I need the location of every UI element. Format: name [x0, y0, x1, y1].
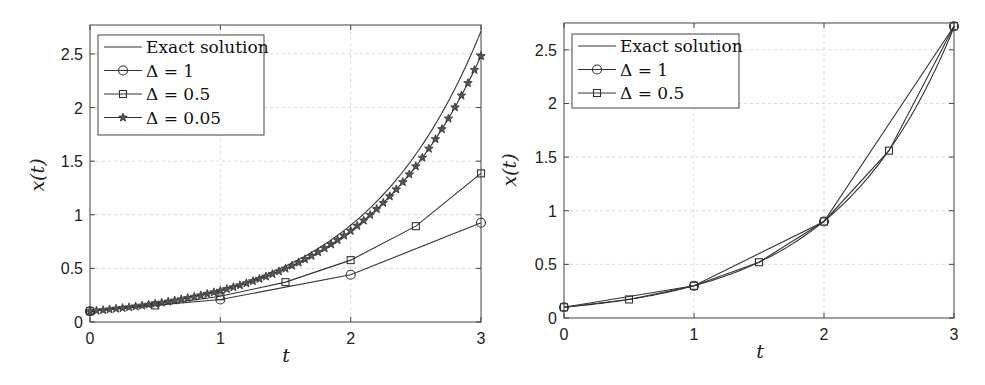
x-axis-label: t [756, 340, 764, 362]
y-tick-label: 1.5 [61, 153, 83, 170]
series-3-star-marker [431, 135, 440, 143]
y-tick-label: 2 [548, 95, 557, 112]
series-3-star-marker [457, 91, 466, 99]
series-3-star-marker [112, 304, 121, 312]
legend-label: Δ = 0.5 [146, 84, 210, 104]
series-3-star-marker [131, 302, 140, 310]
series-3-star-marker [118, 303, 127, 311]
series-2 [87, 170, 485, 315]
legend-label: Δ = 1 [146, 61, 194, 81]
right-plot-exact-samples: 012300.511.522.5tx(t)Exact solutionΔ = 1… [498, 22, 959, 362]
x-tick-label: 3 [477, 330, 486, 347]
legend: Exact solutionΔ = 1Δ = 0.5 [572, 34, 743, 108]
legend-label: Exact solution [146, 37, 269, 57]
x-tick-label: 0 [560, 326, 569, 343]
left-plot-euler-comparison: 012300.511.522.5tx(t)Exact solutionΔ = 1… [26, 25, 486, 366]
y-axis-label: x(t) [26, 158, 48, 191]
x-tick-label: 1 [690, 326, 699, 343]
y-tick-label: 1 [548, 203, 557, 220]
legend-label: Δ = 1 [620, 60, 668, 80]
legend: Exact solutionΔ = 1Δ = 0.5Δ = 0.05 [98, 35, 269, 135]
series-3-star-marker [470, 65, 479, 73]
legend-label: Δ = 0.05 [146, 108, 221, 128]
y-tick-label: 0.5 [61, 260, 83, 277]
x-tick-label: 0 [86, 330, 95, 347]
y-tick-label: 0 [548, 310, 557, 327]
y-tick-label: 1.5 [535, 149, 557, 166]
y-tick-label: 1 [74, 207, 83, 224]
y-tick-label: 0 [74, 314, 83, 331]
series-3-star-marker [438, 125, 447, 133]
x-tick-label: 2 [346, 330, 355, 347]
series-3-star-marker [464, 79, 473, 87]
y-axis-label: x(t) [498, 153, 520, 186]
legend-label: Exact solution [620, 36, 743, 56]
series-3-star-marker [444, 114, 453, 122]
x-tick-label: 3 [950, 326, 959, 343]
series-3-star-marker [138, 301, 147, 309]
series-2-line [90, 173, 481, 311]
y-tick-label: 2 [74, 100, 83, 117]
series-3-star-marker [125, 303, 134, 311]
x-tick-label: 1 [216, 330, 225, 347]
figure: 012300.511.522.5tx(t)Exact solutionΔ = 1… [0, 0, 985, 385]
series-3-star-marker [425, 144, 434, 152]
y-tick-label: 2.5 [61, 46, 83, 63]
x-axis-label: t [282, 344, 290, 366]
series-3-star-marker [105, 305, 114, 313]
x-tick-label: 2 [820, 326, 829, 343]
series-3-star-marker [99, 306, 108, 314]
legend-label: Δ = 0.5 [620, 83, 684, 103]
series-3-star-marker [451, 103, 460, 111]
y-tick-label: 2.5 [535, 42, 557, 59]
y-tick-label: 0.5 [535, 256, 557, 273]
